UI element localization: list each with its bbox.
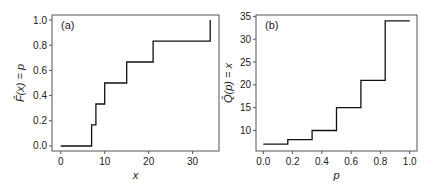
- step-line: [263, 21, 409, 144]
- chart-panel-a: 01020300.00.20.40.60.81.0xF̂(x) = p(a)0.…: [0, 0, 441, 184]
- panel-label: (a): [61, 19, 74, 31]
- step-line: [61, 20, 210, 146]
- x-tick-label: 0.8: [373, 156, 387, 167]
- y-tick-label: 1.0: [33, 15, 47, 26]
- y-tick-label: 0.2: [33, 115, 47, 126]
- x-tick-label: 10: [99, 156, 111, 167]
- x-tick-label: 0.2: [286, 156, 300, 167]
- y-tick-label: 0.6: [33, 65, 47, 76]
- y-tick-label: 0.4: [33, 90, 47, 101]
- y-tick-label: 25: [240, 57, 252, 68]
- x-axis-label: p: [332, 169, 339, 181]
- y-tick-label: 0.0: [33, 140, 47, 151]
- x-tick-label: 0.0: [256, 156, 270, 167]
- y-tick-label: 35: [240, 11, 252, 22]
- y-tick-label: 10: [240, 125, 252, 136]
- x-tick-label: 0.6: [344, 156, 358, 167]
- x-tick-label: 0.4: [315, 156, 329, 167]
- figure: 01020300.00.20.40.60.81.0xF̂(x) = p(a)0.…: [0, 0, 441, 184]
- plot-frame: [52, 15, 219, 151]
- x-axis-label: x: [132, 169, 139, 181]
- x-tick-label: 0: [58, 156, 64, 167]
- panel-label: (b): [265, 19, 278, 31]
- y-tick-label: 0.8: [33, 40, 47, 51]
- x-tick-label: 1.0: [403, 156, 417, 167]
- y-axis-label: F̂(x) = p: [13, 64, 26, 102]
- chart-panel-b: 0.00.20.40.60.81.0101520253035pQ̂(p) = x…: [221, 11, 417, 181]
- x-tick-label: 30: [187, 156, 199, 167]
- y-axis-label: Q̂(p) = x: [221, 62, 234, 103]
- y-tick-label: 30: [240, 34, 252, 45]
- chart-panel-a: 01020300.00.20.40.60.81.0xF̂(x) = p(a): [13, 15, 219, 181]
- y-tick-label: 20: [240, 79, 252, 90]
- y-tick-label: 15: [240, 102, 252, 113]
- x-tick-label: 20: [143, 156, 155, 167]
